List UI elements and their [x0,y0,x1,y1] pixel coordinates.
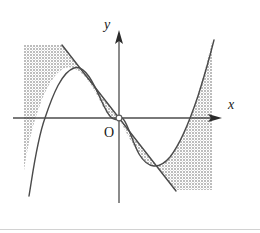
cartesian-plot [0,0,260,233]
lower-right-shaded-region [119,42,212,191]
bottom-divider [0,229,260,230]
figure-container: y x O [0,0,260,233]
y-axis-label: y [104,18,110,32]
x-axis-label: x [228,98,234,112]
origin-label: O [104,126,114,140]
origin-marker-icon [116,115,122,121]
